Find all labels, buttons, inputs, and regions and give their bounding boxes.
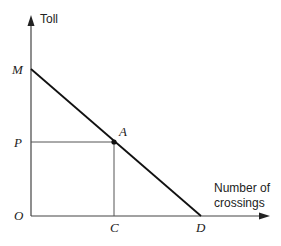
label-a: A bbox=[118, 124, 127, 139]
label-m: M bbox=[11, 62, 24, 77]
y-axis-arrow-icon bbox=[28, 15, 35, 26]
label-p: P bbox=[13, 135, 22, 150]
label-d: D bbox=[195, 220, 206, 235]
label-o: O bbox=[14, 208, 24, 223]
x-axis-arrow-icon bbox=[259, 213, 270, 220]
toll-demand-diagram: Toll Number of crossings M P O A C D bbox=[0, 0, 281, 246]
label-c: C bbox=[110, 220, 119, 235]
x-axis-label-line1: Number of bbox=[214, 181, 271, 195]
point-a-marker bbox=[111, 139, 116, 144]
y-axis-label: Toll bbox=[40, 12, 58, 26]
x-axis-label-line2: crossings bbox=[214, 196, 265, 210]
